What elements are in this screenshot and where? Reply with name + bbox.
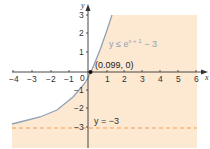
y-axis-arrow-icon	[86, 4, 91, 11]
x-tick-label: 2	[122, 74, 127, 84]
x-tick-label: −1	[64, 74, 74, 84]
x-tick-label: −2	[46, 74, 56, 84]
y-tick-label: −3	[74, 122, 84, 132]
origin-label: 0	[80, 73, 85, 83]
y-tick-label: 3	[79, 10, 84, 20]
y-tick-label: 1	[79, 47, 84, 57]
asymptote-label: y = −3	[94, 116, 119, 126]
x-tick-label: 4	[158, 74, 163, 84]
y-tick-label: 2	[79, 28, 84, 38]
y-axis-label: y	[80, 1, 85, 10]
x-tick-label: −3	[27, 74, 37, 84]
y-tick-label: −2	[74, 103, 84, 113]
x-axis-label: x	[204, 73, 209, 82]
x-tick-label: 6	[194, 74, 199, 84]
x-tick-label: 3	[140, 74, 145, 84]
x-tick-label: 5	[176, 74, 181, 84]
intercept-point	[89, 70, 93, 74]
x-tick-label: 1	[105, 74, 110, 84]
y-tick-label: −1	[74, 85, 84, 95]
inequality-graph: −4 −3 −2 −1 0 1 2 3 4 5 6 x 3 2 1 −1 −2 …	[0, 0, 210, 149]
intercept-label: (0.099, 0)	[95, 60, 134, 70]
x-tick-label: −4	[9, 74, 19, 84]
